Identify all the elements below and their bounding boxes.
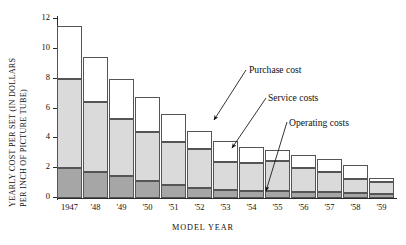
bar-segment-purchase <box>83 57 108 102</box>
bar-59 <box>369 178 394 198</box>
bar-segment-operating <box>213 190 238 198</box>
y-axis-tick-label: 12 <box>42 12 51 22</box>
bar-57 <box>317 159 342 198</box>
bar-segment-operating <box>57 168 82 198</box>
bar-segment-operating <box>369 194 394 198</box>
bar-segment-service <box>109 119 134 176</box>
bar-48 <box>83 57 108 198</box>
y-axis-title-line-2: PER INCH OF PICTURE TUBE) <box>19 7 28 207</box>
bar-segment-service <box>135 132 160 180</box>
x-axis-tick-label: '52 <box>187 202 212 212</box>
bar-segment-operating <box>135 181 160 198</box>
bar-segment-purchase <box>239 147 264 163</box>
bar-segment-service <box>343 179 368 193</box>
x-axis-tick-label: '54 <box>239 202 264 212</box>
annotation-operating-costs: Operating costs <box>289 117 349 128</box>
bar-segment-purchase <box>187 131 212 149</box>
y-axis-tick-label: 4 <box>46 131 50 141</box>
y-axis-tick-label: 0 <box>46 191 50 201</box>
bar-segment-operating <box>343 193 368 198</box>
bar-segment-service <box>239 163 264 191</box>
annotation-service-costs: Service costs <box>268 92 318 103</box>
bar-51 <box>161 114 186 198</box>
bar-segment-service <box>213 162 238 190</box>
y-axis-tick: 12 <box>53 18 57 19</box>
bar-segment-purchase <box>343 165 368 178</box>
bar-segment-service <box>317 172 342 192</box>
x-axis-title: MODEL YEAR <box>0 223 406 232</box>
bar-segment-purchase <box>291 155 316 168</box>
bar-50 <box>135 97 160 198</box>
x-axis-tick-label: '56 <box>291 202 316 212</box>
bar-segment-service <box>369 182 394 193</box>
bar-segment-operating <box>83 172 108 198</box>
bar-segment-operating <box>317 192 342 198</box>
bar-segment-service <box>265 161 290 192</box>
bar-segment-service <box>161 142 186 185</box>
bar-segment-operating <box>187 188 212 198</box>
x-axis-tick-label: '53 <box>213 202 238 212</box>
x-axis-tick-label: '58 <box>343 202 368 212</box>
bar-55 <box>265 150 290 198</box>
bar-segment-operating <box>265 191 290 198</box>
x-axis-tick-label: '55 <box>265 202 290 212</box>
bar-segment-purchase <box>57 26 82 78</box>
y-axis-tick-label: 2 <box>46 161 50 171</box>
bar-1947 <box>57 26 82 198</box>
y-axis-tick-label: 8 <box>46 72 50 82</box>
bar-segment-purchase <box>213 141 238 162</box>
y-axis-tick-label: 10 <box>42 42 51 52</box>
bar-segment-service <box>57 79 82 169</box>
bar-segment-operating <box>239 191 264 198</box>
y-axis-title: YEARLY COST PER SET (IN DOLLARS PER INCH… <box>0 0 50 210</box>
chart-figure: YEARLY COST PER SET (IN DOLLARS PER INCH… <box>0 0 406 245</box>
x-axis-tick-label: 1947 <box>57 202 82 212</box>
y-axis-title-line-1: YEARLY COST PER SET (IN DOLLARS <box>8 7 17 207</box>
bar-segment-purchase <box>317 159 342 172</box>
bar-56 <box>291 155 316 198</box>
x-axis-tick-label: '51 <box>161 202 186 212</box>
bar-segment-service <box>291 168 316 192</box>
x-axis-tick-label: '59 <box>369 202 394 212</box>
y-axis-tick-label: 6 <box>46 102 50 112</box>
x-axis-tick-label: '50 <box>135 202 160 212</box>
x-axis-tick-label: '49 <box>109 202 134 212</box>
bar-segment-purchase <box>135 97 160 133</box>
bar-segment-operating <box>161 185 186 198</box>
bar-54 <box>239 147 264 198</box>
bar-49 <box>109 79 134 198</box>
x-axis-tick-label: '48 <box>83 202 108 212</box>
bar-segment-operating <box>109 176 134 198</box>
bar-52 <box>187 131 212 198</box>
x-axis-tick-label: '57 <box>317 202 342 212</box>
bar-segment-service <box>187 149 212 189</box>
bar-segment-purchase <box>161 114 186 142</box>
annotation-purchase-cost: Purchase cost <box>249 64 302 75</box>
bar-segment-purchase <box>369 178 394 182</box>
bar-segment-purchase <box>265 150 290 160</box>
bar-segment-operating <box>291 192 316 198</box>
bar-segment-purchase <box>109 79 134 119</box>
bar-segment-service <box>83 102 108 172</box>
bar-58 <box>343 165 368 198</box>
plot-area: 024681012 <box>57 19 395 198</box>
bar-53 <box>213 141 238 198</box>
